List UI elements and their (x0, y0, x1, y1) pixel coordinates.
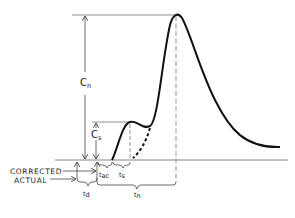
tn-brace (97, 182, 176, 189)
ts-brace (113, 162, 130, 168)
cn-label: Cn (80, 77, 91, 90)
concentration-curve (112, 15, 280, 160)
extrapolated-curve (133, 128, 150, 158)
ts-label: ts (119, 171, 126, 180)
td-label: td (83, 190, 90, 199)
actual-label: ACTUAL (14, 176, 47, 185)
tac-brace (98, 162, 112, 168)
concentration-time-diagram: Cn Cs CORRECTED ACTUAL tac ts td tn (0, 0, 295, 218)
td-brace (77, 178, 97, 186)
tn-label: tn (134, 191, 141, 200)
tac-label: tac (99, 171, 110, 180)
cs-label: Cs (91, 129, 102, 142)
corrected-label: CORRECTED (10, 167, 62, 176)
